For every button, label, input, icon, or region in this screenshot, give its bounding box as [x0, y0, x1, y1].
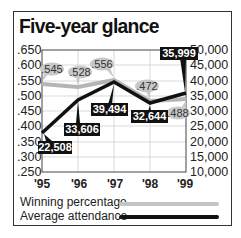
- legend-label-winning: Winning percentage: [20, 195, 127, 209]
- x-tick: '97: [107, 177, 123, 191]
- x-tick: '98: [142, 177, 158, 191]
- x-tick: '96: [71, 177, 87, 191]
- legend-label-attendance: Average attendance: [20, 209, 127, 223]
- label-attendance-98: 32,644: [133, 110, 168, 122]
- label-winning-96: .528: [69, 66, 90, 78]
- label-attendance-99: 35,999: [162, 47, 196, 59]
- label-winning-95: .545: [41, 63, 62, 75]
- label-winning-99: .488: [167, 107, 188, 119]
- label-attendance-96: 33,606: [65, 123, 99, 135]
- label-attendance-95: 22,508: [38, 141, 72, 153]
- x-tick: '95: [34, 177, 50, 191]
- label-winning-98: .472: [136, 80, 157, 92]
- x-tick: '99: [177, 177, 193, 191]
- label-winning-97: .556: [91, 58, 112, 70]
- label-attendance-97: 39,494: [93, 103, 128, 115]
- legend-swatch-attendance: [119, 215, 219, 219]
- legend-swatch-winning: [119, 202, 219, 206]
